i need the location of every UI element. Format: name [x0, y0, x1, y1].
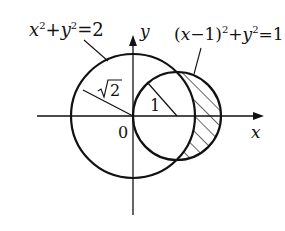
radius-label-sqrt2: 2	[98, 80, 122, 100]
svg-text:2: 2	[110, 81, 120, 100]
y-axis-arrow-icon	[129, 35, 137, 46]
y-axis-label: y	[139, 21, 150, 41]
diagram-canvas: x2+y2=2 (x−1)2+y2=1 y x 0 2 1	[0, 0, 285, 231]
origin-label: 0	[118, 123, 128, 142]
radius-label-one: 1	[150, 96, 160, 115]
radius-line-big	[83, 90, 133, 116]
leader-line-big	[84, 40, 108, 61]
equation-big-label: x2+y2=2	[29, 19, 104, 40]
leader-line-small	[194, 48, 201, 74]
equation-small-label: (x−1)2+y2=1	[174, 24, 284, 44]
x-axis-arrow-icon	[253, 112, 264, 120]
x-axis-label: x	[251, 122, 261, 142]
